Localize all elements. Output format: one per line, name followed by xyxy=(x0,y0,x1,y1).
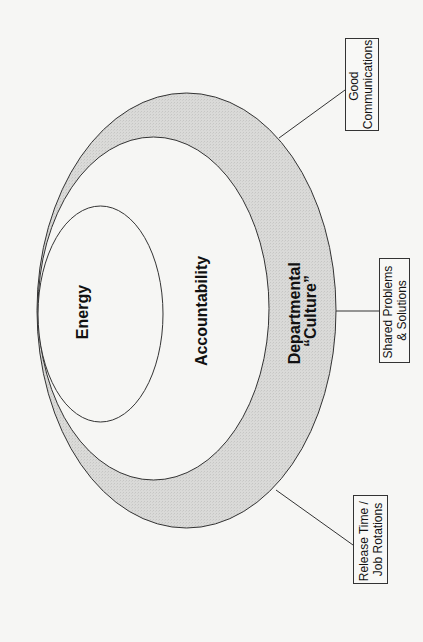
connector-release-time xyxy=(276,490,353,545)
callout-release-time: Release Time / Job Rotations xyxy=(354,496,388,584)
callout-shared-problems: Shared Problems & Solutions xyxy=(380,259,410,363)
svg-text:Release Time / Job Rot: Release Time / Job Rotations xyxy=(357,498,385,581)
connector-good-communications xyxy=(279,90,345,138)
accountability-label: Accountability xyxy=(193,256,210,366)
diagram-page: Energy Accountability Departmental “Cult… xyxy=(0,0,423,642)
nested-ellipse-diagram: Energy Accountability Departmental “Cult… xyxy=(0,0,423,642)
callout-good-communications: Good Communications xyxy=(346,39,379,131)
inner-ring-energy xyxy=(38,206,163,422)
energy-label: Energy xyxy=(74,285,91,339)
